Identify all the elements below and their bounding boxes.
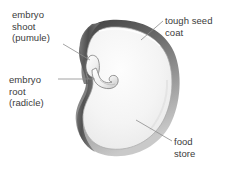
label-tough-seed-coat: tough seed coat (165, 15, 213, 38)
label-embryo-shoot: embryo shoot (pumule) (12, 9, 50, 44)
seed-diagram: embryo shoot (pumule) embryo root (radic… (0, 0, 227, 176)
label-embryo-root: embryo root (radicle) (9, 74, 44, 109)
label-food-store: food store (174, 136, 195, 159)
